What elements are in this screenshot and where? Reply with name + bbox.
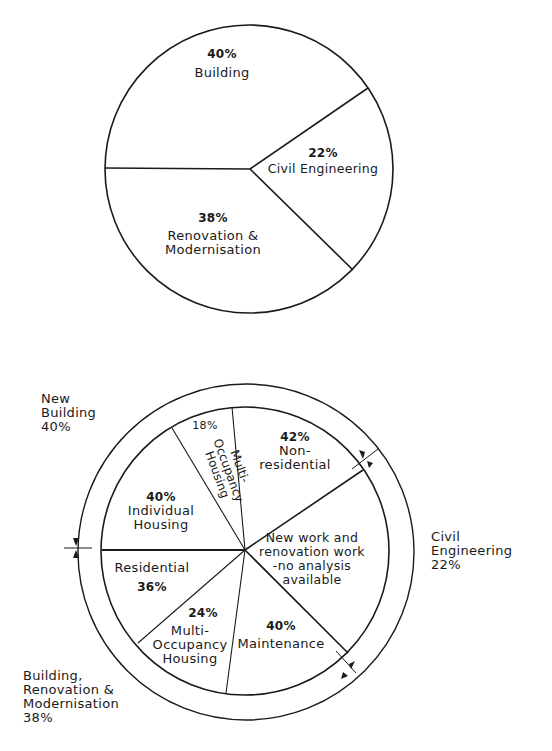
residential-name: Residential [107, 561, 197, 575]
outer-label-renovation: Building, Renovation & Modernisation 38% [23, 669, 119, 725]
outer-civil-line2: Engineering [431, 544, 512, 558]
multi24-line3: Housing [145, 652, 235, 666]
outer-renovation-pct: 38% [23, 711, 119, 725]
segment-residential: Residential 36% [107, 561, 197, 594]
arrow-icon [359, 450, 365, 459]
segment-maintenance: 40% Maintenance [226, 619, 336, 651]
pct-building: 40% [172, 47, 272, 61]
pct-multi18: 18% [190, 419, 220, 433]
label-renovation: 38% Renovation & Modernisation [148, 211, 278, 257]
name-civil: Civil Engineering [253, 162, 393, 176]
newwork-line4: available [256, 573, 368, 587]
outer-renovation-line1: Building, [23, 669, 119, 683]
nonres-line2: residential [240, 458, 350, 472]
top-pie-divider-left [105, 168, 250, 169]
pct-individual: 40% [108, 490, 214, 504]
outer-new-building-line2: Building [41, 406, 96, 420]
outer-label-new-building: New Building 40% [41, 392, 96, 434]
outer-new-building-pct: 40% [41, 420, 96, 434]
segment-non-residential: 42% Non- residential [240, 430, 350, 472]
segment-new-and-renovation-work: New work and renovation work -no analysi… [256, 531, 368, 587]
label-building: 40% Building [172, 47, 272, 80]
label-civil-engineering: 22% Civil Engineering [253, 146, 393, 176]
outer-renovation-line2: Renovation & [23, 683, 119, 697]
newwork-line2: renovation work [256, 545, 368, 559]
pct-civil: 22% [253, 146, 393, 160]
arrow-icon [367, 461, 373, 468]
nonres-line1: Non- [240, 444, 350, 458]
segment-multi-occupancy-24: 24% Multi- Occupancy Housing [145, 606, 235, 666]
newwork-line3: -no analysis [256, 559, 368, 573]
maintenance-name: Maintenance [226, 637, 336, 651]
pct-multi24: 24% [145, 606, 235, 620]
pct-residential: 36% [107, 580, 197, 594]
outer-new-building-line1: New [41, 392, 96, 406]
pct-nonres: 42% [240, 430, 350, 444]
segment-individual-housing: 40% Individual Housing [108, 490, 214, 532]
name-building: Building [172, 66, 272, 80]
newwork-line1: New work and [256, 531, 368, 545]
pct-renovation: 38% [148, 211, 278, 225]
multi24-line2: Occupancy [145, 638, 235, 652]
outer-renovation-line3: Modernisation [23, 697, 119, 711]
outer-label-civil-engineering: Civil Engineering 22% [431, 530, 512, 572]
individual-line1: Individual [108, 504, 214, 518]
arrow-icon [349, 661, 355, 669]
outer-civil-pct: 22% [431, 558, 512, 572]
name-renovation-line1: Renovation & [148, 229, 278, 243]
outer-civil-line1: Civil [431, 530, 512, 544]
arrow-icon [341, 672, 348, 679]
pct-maintenance: 40% [226, 619, 336, 633]
individual-line2: Housing [108, 518, 214, 532]
multi24-line1: Multi- [145, 624, 235, 638]
name-renovation-line2: Modernisation [148, 243, 278, 257]
